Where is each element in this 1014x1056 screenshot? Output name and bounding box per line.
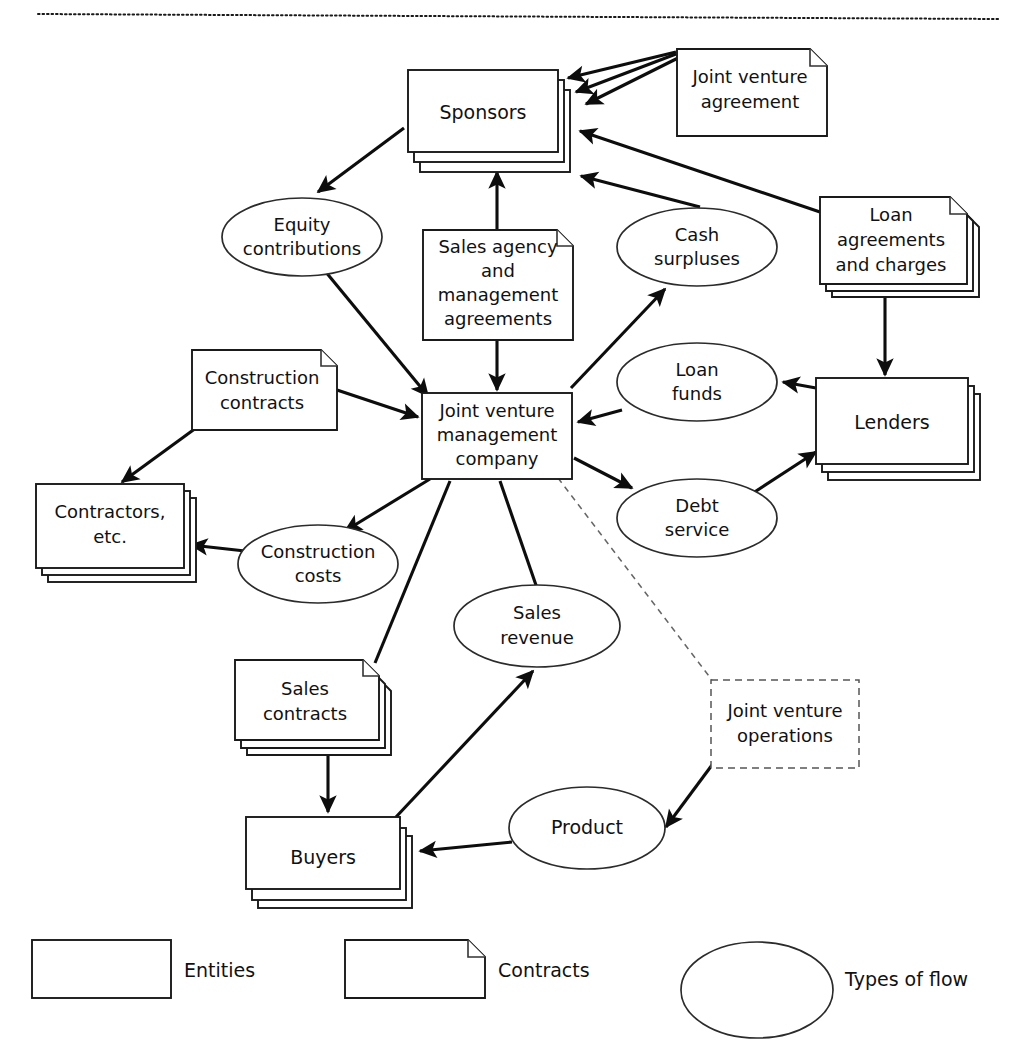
loan-funds-ellipse [617,343,777,421]
sales-agency-label-line3: management [438,284,559,305]
legend: Entities Contracts Types of flow [32,940,968,1038]
node-cash-surpluses[interactable]: Cash surpluses [617,208,777,286]
edge-construction-contracts-to-contractors [122,428,196,482]
legend-entities-label: Entities [184,959,255,981]
legend-entity-shape [32,940,171,998]
cash-surpluses-label-line1: Cash [675,224,719,245]
sales-contracts-label-line1: Sales [281,678,329,699]
construction-contracts-label-line2: contracts [220,392,304,413]
legend-contract-shape [345,940,485,998]
edge-jvmc-to-debt-service [574,458,632,488]
jv-operations-label-line1: Joint venture [726,700,842,721]
node-sales-agency-and-management-agreements[interactable]: Sales agency and management agreements [423,230,573,340]
legend-item-entities: Entities [32,940,255,998]
node-joint-venture-operations[interactable]: Joint venture operations [711,680,859,768]
debt-service-label-line2: service [665,519,729,540]
sales-revenue-label-line2: revenue [500,627,574,648]
legend-item-contracts: Contracts [345,940,590,998]
jv-operations-boundary [711,680,859,768]
edge-construction-contracts-to-jvmc [337,390,418,417]
jvmc-label-line2: management [437,424,558,445]
construction-costs-label-line1: Construction [261,541,376,562]
construction-contracts-fold-icon [321,350,337,366]
loan-agreements-label-line3: and charges [836,254,947,275]
edge-jv-operations-to-product [666,765,712,827]
legend-item-types-of-flow: Types of flow [681,942,968,1038]
joint-venture-diagram: Sponsors Joint venture agreement Loan ag… [0,0,1014,1056]
top-divider-rule [38,14,1000,19]
sales-agency-label-line1: Sales agency [438,236,557,257]
cash-surpluses-label-line2: surpluses [654,248,740,269]
construction-costs-ellipse [238,525,398,603]
sales-revenue-label-line1: Sales [513,602,561,623]
lenders-label: Lenders [854,411,929,433]
equity-contributions-label-line1: Equity [274,214,331,235]
jvmc-label-line3: company [456,448,539,469]
edge-sponsors-to-equity-contributions [318,128,404,192]
product-label: Product [551,816,623,838]
node-loan-funds[interactable]: Loan funds [617,343,777,421]
debt-service-ellipse [617,479,777,557]
edge-product-to-buyers [420,842,512,851]
loan-agreements-label-line2: agreements [837,229,945,250]
node-joint-venture-agreement[interactable]: Joint venture agreement [677,49,827,136]
construction-costs-label-line2: costs [295,565,342,586]
buyers-label: Buyers [290,846,356,868]
node-product[interactable]: Product [509,787,665,869]
node-contractors-etc[interactable]: Contractors, etc. [36,484,196,582]
loan-agreements-label-line1: Loan [869,204,912,225]
edge-loan-agreements-to-sponsors [580,131,820,212]
sales-contracts-label-line2: contracts [263,703,347,724]
node-buyers[interactable]: Buyers [246,817,412,908]
jv-operations-label-line2: operations [737,725,833,746]
node-construction-costs[interactable]: Construction costs [238,525,398,603]
node-debt-service[interactable]: Debt service [617,479,777,557]
equity-contributions-ellipse [222,198,382,276]
debt-service-label-line1: Debt [675,495,718,516]
contractors-label-line2: etc. [93,526,127,547]
jv-agreement-label-line2: agreement [701,91,800,112]
sales-agency-label-line2: and [481,260,515,281]
node-loan-agreements-and-charges[interactable]: Loan agreements and charges [820,197,979,297]
loan-funds-label-line2: funds [672,383,722,404]
figure-canvas: Sponsors Joint venture agreement Loan ag… [0,0,1014,1056]
edge-sales-revenue-to-jvmc [500,481,537,588]
loan-funds-label-line1: Loan [675,359,718,380]
jv-agreement-label-line1: Joint venture [691,66,807,87]
edge-construction-costs-to-contractors [191,545,245,551]
node-joint-venture-management-company[interactable]: Joint venture management company [422,393,572,479]
sales-agency-label-line4: agreements [444,308,552,329]
edge-equity-contributions-to-jvmc [325,271,428,396]
construction-contracts-label-line1: Construction [205,367,320,388]
edge-lenders-to-loan-funds [783,382,816,388]
edge-buyers-to-sales-revenue [396,671,533,817]
jvmc-label-line1: Joint venture [438,400,554,421]
node-equity-contributions[interactable]: Equity contributions [222,198,382,276]
edge-cash-surpluses-to-sponsors [581,176,700,207]
node-sponsors[interactable]: Sponsors [408,70,570,172]
edge-jvmc-to-construction-costs [345,479,430,531]
sales-revenue-ellipse [454,585,620,667]
construction-contracts-page [192,350,337,430]
edge-jv-agreement-to-sponsors-3 [586,58,678,104]
legend-types-of-flow-label: Types of flow [844,968,968,990]
contractors-label-line1: Contractors, [55,501,166,522]
sponsors-label: Sponsors [439,101,526,123]
legend-contracts-label: Contracts [498,959,590,981]
cash-surpluses-ellipse [617,208,777,286]
equity-contributions-label-line2: contributions [243,238,361,259]
edge-loan-funds-to-jvmc [578,410,622,422]
node-construction-contracts[interactable]: Construction contracts [192,350,337,430]
legend-contract-fold-icon [468,940,485,957]
legend-flow-shape [681,942,833,1038]
sales-contracts-page [235,660,379,740]
node-lenders[interactable]: Lenders [816,378,980,480]
edge-debt-service-to-lenders [750,452,816,495]
node-sales-contracts[interactable]: Sales contracts [235,660,391,755]
node-sales-revenue[interactable]: Sales revenue [454,585,620,667]
